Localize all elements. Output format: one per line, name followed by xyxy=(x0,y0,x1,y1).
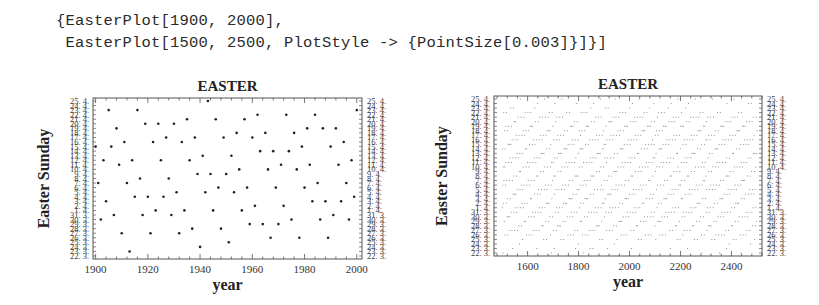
x-tick-label: 1800 xyxy=(568,260,591,272)
plot-frame xyxy=(93,98,362,259)
x-tick-label: 1920 xyxy=(137,263,160,275)
data-points xyxy=(94,100,358,253)
x-tick-label: 2200 xyxy=(669,260,692,272)
y-axis-label: Easter Sunday xyxy=(433,126,451,226)
x-tick-label: 1980 xyxy=(294,263,317,275)
x-tick-label: 2400 xyxy=(720,260,743,272)
chart-title: EASTER xyxy=(598,76,658,92)
x-tick-label: 1600 xyxy=(517,260,540,272)
x-tick-label: 2000 xyxy=(619,260,642,272)
x-tick-label: 2000 xyxy=(346,263,369,275)
charts-canvas: EASTER19001920194019601980200022. 3.22. … xyxy=(0,0,819,305)
plot-frame xyxy=(494,96,762,256)
x-tick-label: 1900 xyxy=(85,263,108,275)
x-tick-label: 1940 xyxy=(189,263,212,275)
y-tick-label-right: 25. 4. xyxy=(367,96,386,106)
chart-2: EASTER1600180020002200240022. 3.22. 3.23… xyxy=(433,76,786,291)
x-tick-label: 1960 xyxy=(241,263,264,275)
y-tick-label: 25. 4. xyxy=(70,96,89,106)
y-axis-label: Easter Sunday xyxy=(35,129,53,229)
data-points xyxy=(502,99,758,254)
chart-title: EASTER xyxy=(197,78,257,94)
x-axis-label: year xyxy=(613,273,643,291)
chart-1: EASTER19001920194019601980200022. 3.22. … xyxy=(35,78,386,294)
y-tick-label-right: 25. 4. xyxy=(767,94,786,104)
x-axis-label: year xyxy=(212,276,242,294)
y-tick-label: 25. 4. xyxy=(471,94,490,104)
